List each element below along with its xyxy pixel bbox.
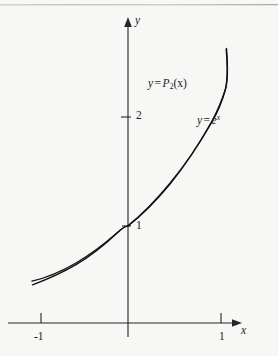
y-axis-label: y <box>135 15 140 27</box>
plot-canvas <box>0 0 278 356</box>
y-tick-label-1: 1 <box>136 220 142 232</box>
curve-taylor-p2 <box>32 50 227 282</box>
curve-label-taylor-p2: y=P2(x) <box>148 78 187 91</box>
x-axis-label: x <box>241 325 246 337</box>
x-tick-label-1: 1 <box>219 331 225 343</box>
curve-label-ex-exponent: x <box>217 113 220 122</box>
x-tick-label-negative-1: -1 <box>34 331 44 343</box>
y-tick-label-2: 2 <box>136 110 142 122</box>
y-axis-arrowhead <box>124 17 132 27</box>
exponential-taylor-approximation-figure: y x 2 1 -1 1 y=P2(x) y=ex <box>0 0 278 356</box>
curve-label-p2-operator: = <box>153 77 163 89</box>
curve-label-p2-function: P <box>163 77 170 89</box>
curve-label-ex-operator: = <box>202 114 212 126</box>
curve-label-p2-argument: (x) <box>173 77 186 89</box>
curve-exponential <box>33 49 228 285</box>
curve-label-exponential: y=ex <box>197 114 220 127</box>
